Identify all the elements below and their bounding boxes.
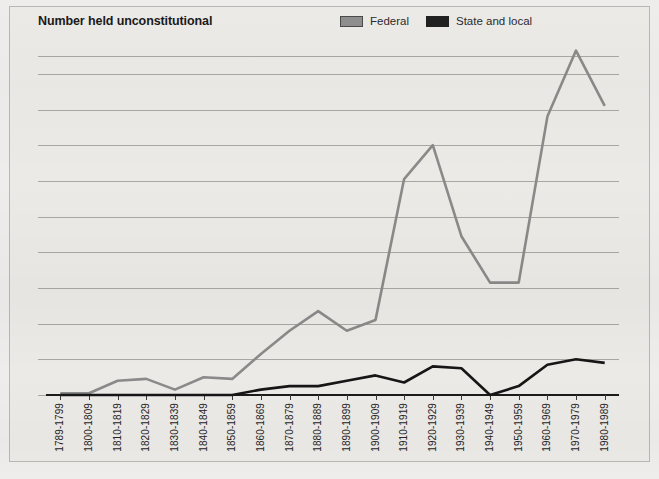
y-axis-tick-190 [38, 56, 46, 57]
x-axis-tick-1860-1869 [261, 395, 262, 400]
y-axis-tick-80 [38, 252, 46, 253]
x-axis-label-1970-1979: 1970-1979 [570, 403, 581, 452]
x-axis-label-1840-1849: 1840-1849 [198, 403, 209, 452]
x-axis-label-1960-1969: 1960-1969 [541, 403, 552, 452]
y-axis-tick-120 [38, 181, 46, 182]
x-axis-tick-1960-1969 [547, 395, 548, 400]
legend-label-state-and-local: State and local [456, 15, 532, 27]
x-axis-label-1910-1919: 1910-1919 [398, 403, 409, 452]
x-axis-tick-1930-1939 [461, 395, 462, 400]
series-line-federal [60, 51, 604, 394]
y-axis-tick-180 [38, 74, 46, 75]
x-axis-tick-1880-1889 [318, 395, 319, 400]
chart-figure: Number held unconstitutional Federal Sta… [0, 0, 659, 479]
x-axis-tick-1910-1919 [404, 395, 405, 400]
x-axis-label-1880-1889: 1880-1889 [312, 403, 323, 452]
x-axis-tick-1920-1929 [433, 395, 434, 400]
x-axis-label-1890-1899: 1890-1899 [341, 403, 352, 452]
legend-swatch-state-icon [426, 16, 449, 27]
x-axis-label-1940-1949: 1940-1949 [484, 403, 495, 452]
x-axis-label-1860-1869: 1860-1869 [255, 403, 266, 452]
x-axis-tick-1950-1959 [519, 395, 520, 400]
x-axis-label-1920-1929: 1920-1929 [427, 403, 438, 452]
chart-legend: Federal State and local [340, 15, 532, 27]
chart-title: Number held unconstitutional [38, 14, 212, 28]
x-axis-tick-1980-1989 [605, 395, 606, 400]
y-axis-tick-40 [38, 324, 46, 325]
x-axis-label-1830-1839: 1830-1839 [169, 403, 180, 452]
legend-item-federal: Federal [340, 15, 409, 27]
x-axis-label-1900-1909: 1900-1909 [370, 403, 381, 452]
x-axis-label-1789-1799: 1789-1799 [54, 403, 65, 452]
y-axis-tick-140 [38, 145, 46, 146]
x-axis-label-1820-1829: 1820-1829 [140, 403, 151, 452]
x-axis-label-1870-1879: 1870-1879 [284, 403, 295, 452]
x-axis-label-1950-1959: 1950-1959 [513, 403, 524, 452]
x-axis-tick-1890-1899 [347, 395, 348, 400]
y-axis-tick-160 [38, 110, 46, 111]
x-axis-tick-1900-1909 [376, 395, 377, 400]
x-axis-label-1800-1809: 1800-1809 [83, 403, 94, 452]
plot-area: 020406080100120140160180190 1789-1799180… [46, 47, 619, 395]
y-axis-tick-60 [38, 288, 46, 289]
series-line-state-and-local [60, 359, 604, 395]
data-series-lines [46, 47, 619, 395]
legend-item-state-and-local: State and local [426, 15, 532, 27]
x-axis-label-1980-1989: 1980-1989 [599, 403, 610, 452]
x-axis-label-1850-1859: 1850-1859 [226, 403, 237, 452]
y-axis-tick-100 [38, 217, 46, 218]
y-axis-tick-20 [38, 359, 46, 360]
legend-label-federal: Federal [370, 15, 409, 27]
legend-swatch-federal-icon [340, 16, 363, 27]
y-axis-tick-0 [38, 395, 46, 396]
x-axis-label-1930-1939: 1930-1939 [455, 403, 466, 452]
x-axis-tick-1970-1979 [576, 395, 577, 400]
x-axis-label-1810-1819: 1810-1819 [112, 403, 123, 452]
x-axis-tick-1870-1879 [290, 395, 291, 400]
